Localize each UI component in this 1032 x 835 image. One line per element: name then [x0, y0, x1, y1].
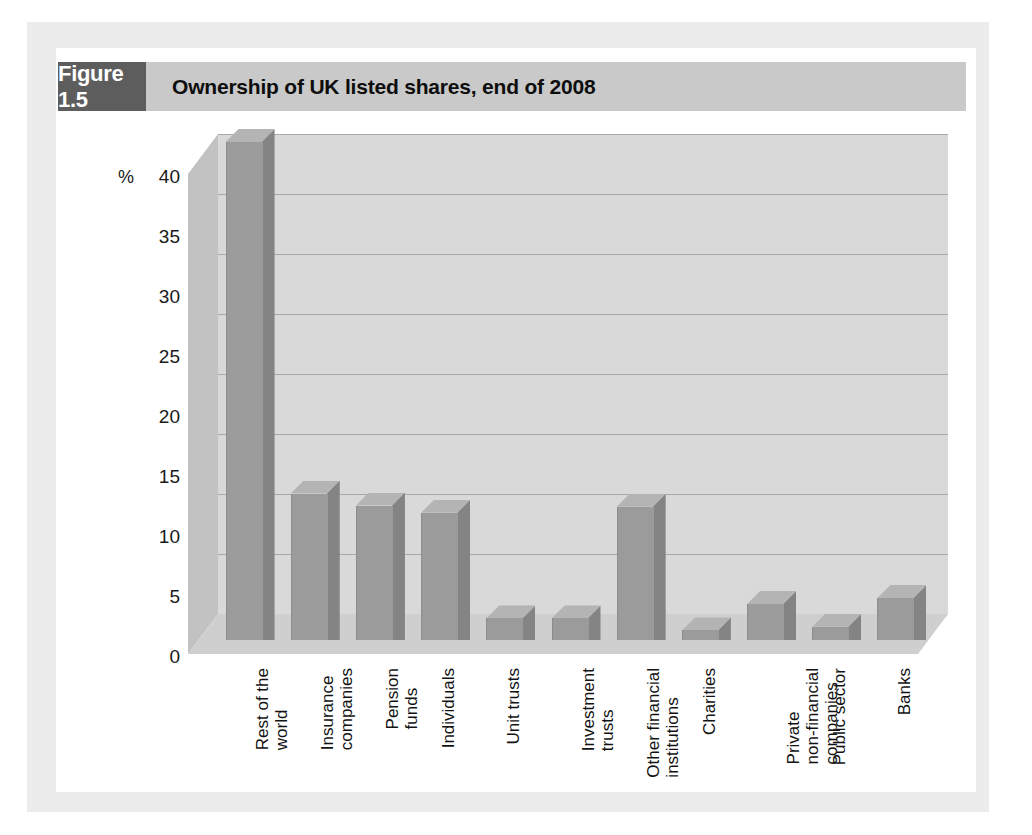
- bar: [812, 627, 848, 640]
- y-axis-tick-label: 0: [120, 646, 180, 668]
- bar: [552, 618, 588, 640]
- x-axis-category-label: Rest of theworld: [253, 668, 291, 750]
- x-axis-label-line: funds: [402, 668, 421, 729]
- bar-front-face: [812, 627, 849, 640]
- gridline: [218, 194, 948, 195]
- y-axis-tick-label: 20: [120, 406, 180, 428]
- x-axis-label-line: Pension: [383, 668, 402, 729]
- x-axis-label-line: Private: [784, 668, 803, 764]
- x-axis-label-line: Public sector: [830, 668, 849, 765]
- x-axis-label-line: Insurance: [318, 668, 337, 750]
- bar: [486, 618, 522, 640]
- bar-side-face: [262, 129, 275, 640]
- y-axis-tick-label: 30: [120, 286, 180, 308]
- bar-front-face: [486, 618, 523, 640]
- bar: [291, 494, 327, 640]
- y-axis-tick-label: 10: [120, 526, 180, 548]
- bar: [877, 598, 913, 640]
- x-axis-label-line: Rest of the: [253, 668, 272, 750]
- x-axis-label-line: Charities: [700, 668, 719, 735]
- x-axis-label-line: trusts: [598, 668, 617, 751]
- figure-header: Figure 1.5 Ownership of UK listed shares…: [58, 62, 966, 111]
- x-axis-labels: Rest of theworldInsurancecompaniesPensio…: [188, 662, 948, 822]
- bar-chart: 0510152025303540 % Rest of theworldInsur…: [58, 126, 966, 786]
- bar-front-face: [226, 142, 263, 640]
- x-axis-label-line: companies: [337, 668, 356, 750]
- bar-front-face: [682, 630, 719, 640]
- figure-number-tag: Figure 1.5: [58, 62, 146, 111]
- x-axis-label-line: non-financial: [803, 668, 822, 764]
- x-axis-label-line: world: [272, 668, 291, 750]
- bar-front-face: [552, 618, 589, 640]
- x-axis-label-line: institutions: [663, 668, 682, 778]
- x-axis-label-line: Other financial: [644, 668, 663, 778]
- y-axis-tick-label: 15: [120, 466, 180, 488]
- bar: [226, 142, 262, 640]
- gridline: [218, 254, 948, 255]
- y-axis-unit-label: %: [104, 167, 134, 188]
- x-axis-category-label: Individuals: [439, 668, 458, 748]
- figure-page: Figure 1.5 Ownership of UK listed shares…: [0, 0, 1032, 835]
- plot-area: [188, 134, 948, 654]
- y-axis-tick-label: 5: [120, 586, 180, 608]
- plot-left-wall: [188, 134, 218, 654]
- bar: [356, 506, 392, 640]
- bar-front-face: [291, 494, 328, 640]
- bar-front-face: [356, 506, 393, 640]
- bar: [617, 507, 653, 640]
- gridline: [218, 314, 948, 315]
- y-axis-tick-label: 25: [120, 346, 180, 368]
- gridline: [218, 434, 948, 435]
- x-axis-category-label: Banks: [895, 668, 914, 715]
- y-axis: 0510152025303540: [88, 126, 180, 786]
- y-axis-tick-label: 35: [120, 226, 180, 248]
- figure-title: Ownership of UK listed shares, end of 20…: [146, 62, 966, 111]
- x-axis-category-label: Pensionfunds: [383, 668, 421, 729]
- x-axis-label-line: Banks: [895, 668, 914, 715]
- bar-front-face: [421, 513, 458, 640]
- bar-side-face: [457, 500, 470, 640]
- x-axis-category-label: Public sector: [830, 668, 849, 765]
- x-axis-label-line: Investment: [579, 668, 598, 751]
- gridline: [218, 374, 948, 375]
- x-axis-category-label: Unit trusts: [504, 668, 523, 745]
- x-axis-category-label: Charities: [700, 668, 719, 735]
- gridline: [218, 134, 948, 135]
- x-axis-category-label: Other financialinstitutions: [644, 668, 682, 778]
- bar-front-face: [617, 507, 654, 640]
- x-axis-category-label: Investmenttrusts: [579, 668, 617, 751]
- bar: [421, 513, 457, 640]
- bar-front-face: [747, 604, 784, 640]
- bar-side-face: [653, 494, 666, 640]
- bar-front-face: [877, 598, 914, 640]
- bar-side-face: [327, 481, 340, 640]
- bar: [747, 604, 783, 640]
- x-axis-label-line: Individuals: [439, 668, 458, 748]
- bar: [682, 630, 718, 640]
- x-axis-label-line: Unit trusts: [504, 668, 523, 745]
- bar-side-face: [392, 493, 405, 640]
- x-axis-category-label: Insurancecompanies: [318, 668, 356, 750]
